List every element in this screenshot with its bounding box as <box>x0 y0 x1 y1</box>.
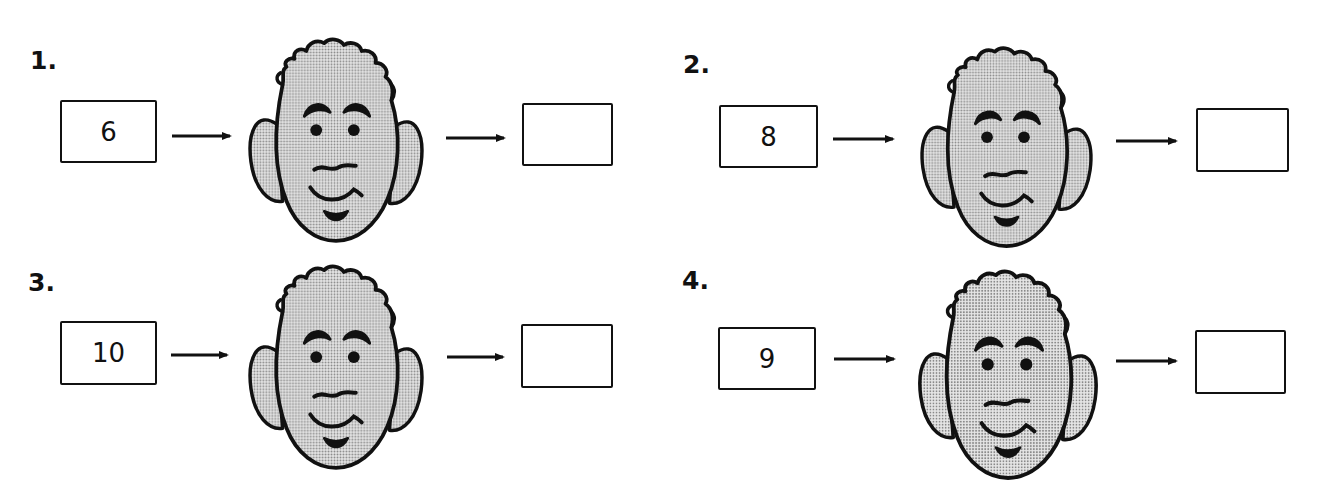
right-arrow-icon <box>1114 133 1180 149</box>
answer-box[interactable] <box>522 103 613 166</box>
answer-box[interactable] <box>1195 330 1286 394</box>
answer-box[interactable] <box>521 324 613 388</box>
input-box: 8 <box>719 105 818 168</box>
face-machine-icon <box>247 33 425 243</box>
problem-number: 1. <box>30 48 57 73</box>
right-arrow-icon <box>1114 353 1180 369</box>
right-arrow-icon <box>444 130 508 146</box>
input-box: 9 <box>718 327 816 390</box>
right-arrow-icon <box>832 351 898 367</box>
right-arrow-icon <box>445 349 507 365</box>
face-machine-icon <box>247 260 425 470</box>
input-box: 10 <box>60 321 157 385</box>
problem-number: 3. <box>28 270 55 295</box>
right-arrow-icon <box>170 128 234 144</box>
right-arrow-icon <box>831 131 897 147</box>
right-arrow-icon <box>169 347 231 363</box>
face-machine-icon <box>916 265 1100 480</box>
input-box: 6 <box>60 100 157 163</box>
problem-number: 2. <box>683 52 710 77</box>
answer-box[interactable] <box>1196 108 1289 172</box>
problem-number: 4. <box>682 268 709 293</box>
face-machine-icon <box>916 42 1097 248</box>
